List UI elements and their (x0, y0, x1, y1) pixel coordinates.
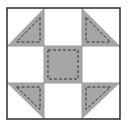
quilt-pieces (7, 8, 120, 119)
quilt-block-diagram (0, 0, 140, 127)
center-square (44, 46, 82, 83)
